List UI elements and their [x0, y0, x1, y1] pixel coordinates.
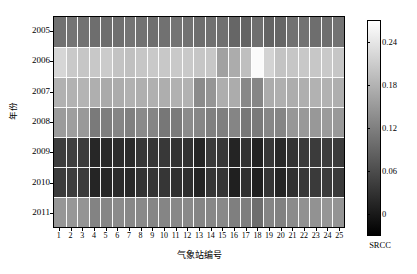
heatmap-cell [193, 137, 205, 167]
heatmap-cell [147, 107, 159, 137]
gridline-vertical [135, 17, 136, 227]
heatmap-cell [263, 77, 275, 107]
heatmap-cell [77, 17, 89, 47]
heatmap-cell [100, 167, 112, 197]
x-axis-ticks: 1234567891011121314151617181920212223242… [53, 230, 345, 242]
heatmap-cell [251, 77, 263, 107]
heatmap-cell [54, 167, 66, 197]
colorbar-tick-label: 0 [382, 210, 386, 218]
heatmap-cell [251, 167, 263, 197]
heatmap-cell [332, 77, 344, 107]
heatmap-cell [124, 107, 136, 137]
gridline-vertical [274, 17, 275, 227]
heatmap-cell [228, 167, 240, 197]
heatmap-cell [205, 47, 217, 77]
heatmap-cell [124, 17, 136, 47]
heatmap-cell [298, 167, 310, 197]
heatmap-cell [286, 197, 298, 227]
heatmap-cell [321, 47, 333, 77]
x-tick-mark [292, 228, 293, 231]
heatmap-cell [54, 77, 66, 107]
heatmap-cell [124, 197, 136, 227]
heatmap-cell [309, 77, 321, 107]
x-tick-mark [199, 228, 200, 231]
heatmap-cell [309, 107, 321, 137]
heatmap-cell [112, 47, 124, 77]
x-tick-label: 10 [158, 230, 170, 242]
heatmap-cell [66, 77, 78, 107]
heatmap-cell [205, 107, 217, 137]
colorbar-tick-mark [367, 214, 370, 215]
heatmap-cell [193, 167, 205, 197]
gridline-vertical [263, 17, 264, 227]
y-tick-label: 2008 [4, 117, 50, 126]
heatmap-cell [100, 197, 112, 227]
y-tick-mark [50, 61, 53, 62]
heatmap-cell [124, 167, 136, 197]
y-tick-label: 2006 [4, 56, 50, 65]
heatmap-cell [332, 167, 344, 197]
heatmap-cell [298, 17, 310, 47]
heatmap-cell [147, 77, 159, 107]
gridline-vertical [193, 17, 194, 227]
heatmap-cell [309, 47, 321, 77]
heatmap-cell [193, 107, 205, 137]
heatmap-cell [240, 77, 252, 107]
heatmap-cell [170, 197, 182, 227]
y-tick-mark [50, 213, 53, 214]
heatmap-cell [274, 137, 286, 167]
x-tick-mark [152, 228, 153, 231]
colorbar-tick-label: 0.06 [382, 167, 397, 175]
x-tick-label: 17 [240, 230, 252, 242]
gridline-vertical [298, 17, 299, 227]
gridline-horizontal [54, 167, 344, 168]
gridline-vertical [158, 17, 159, 227]
heatmap-cell [193, 197, 205, 227]
heatmap-cell [182, 137, 194, 167]
heatmap-cell [240, 197, 252, 227]
gridline-horizontal [54, 47, 344, 48]
x-tick-mark [82, 228, 83, 231]
heatmap-cell [170, 47, 182, 77]
x-axis-title: 气象站编号 [53, 248, 345, 261]
x-tick-label: 4 [88, 230, 100, 242]
heatmap-cell [89, 47, 101, 77]
x-tick-mark [164, 228, 165, 231]
heatmap-cell [77, 167, 89, 197]
x-tick-label: 18 [252, 230, 264, 242]
x-tick-label: 14 [205, 230, 217, 242]
heatmap-cell [193, 77, 205, 107]
heatmap-cell [158, 17, 170, 47]
heatmap-cell [321, 137, 333, 167]
heatmap-figure: 年份 2005200620072008200920102011 12345678… [0, 0, 417, 274]
heatmap-cell [274, 167, 286, 197]
heatmap-cell [77, 47, 89, 77]
heatmap-cell [263, 167, 275, 197]
heatmap-cell [332, 47, 344, 77]
gridline-vertical [77, 17, 78, 227]
heatmap-cell [205, 197, 217, 227]
x-tick-label: 21 [287, 230, 299, 242]
x-tick-mark [117, 228, 118, 231]
x-tick-mark [176, 228, 177, 231]
colorbar-tick-mark [367, 85, 370, 86]
x-tick-label: 11 [170, 230, 182, 242]
heatmap-cell [66, 137, 78, 167]
heatmap-cell [135, 137, 147, 167]
heatmap-cell [182, 197, 194, 227]
heatmap-cell [135, 167, 147, 197]
heatmap-cell [54, 137, 66, 167]
heatmap-cell [263, 107, 275, 137]
gridline-vertical [321, 17, 322, 227]
gridline-vertical [100, 17, 101, 227]
heatmap-cell [54, 47, 66, 77]
x-tick-mark [222, 228, 223, 231]
gridline-horizontal [54, 77, 344, 78]
gridline-vertical [89, 17, 90, 227]
heatmap-cell [170, 137, 182, 167]
x-tick-label: 5 [100, 230, 112, 242]
colorbar-tick-mark [367, 42, 370, 43]
heatmap-cell [112, 17, 124, 47]
heatmap-cell [66, 167, 78, 197]
heatmap-cell [298, 197, 310, 227]
